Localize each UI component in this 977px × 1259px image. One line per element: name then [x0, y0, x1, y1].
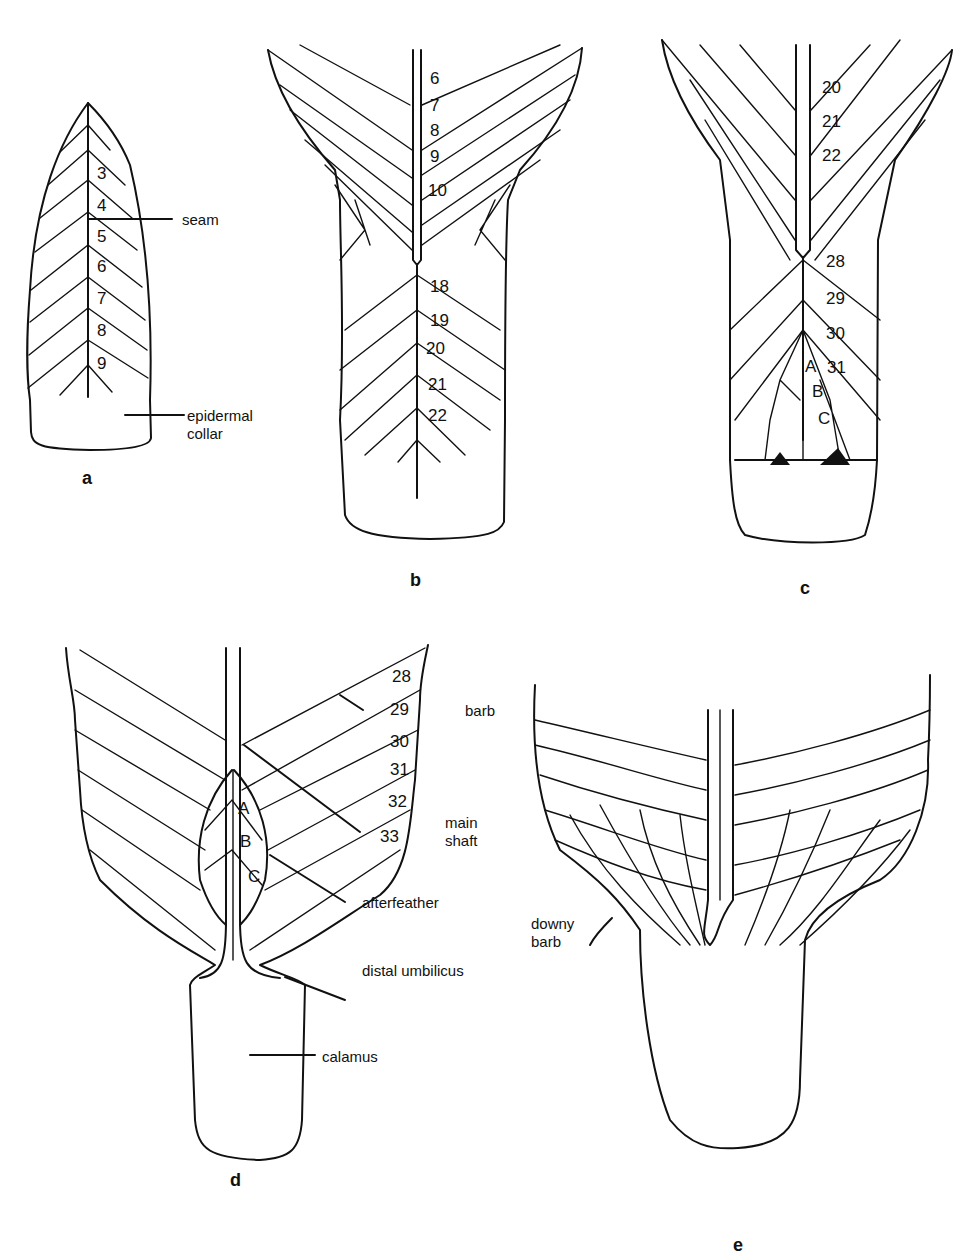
label-main-shaft: shaft: [445, 832, 478, 849]
barb-number: 30: [390, 733, 409, 750]
label-downy-barb: downy: [531, 915, 574, 932]
afterfeather-letter: C: [818, 410, 830, 427]
label-barb: barb: [465, 702, 495, 719]
panel-e-drawing: [534, 675, 930, 1148]
barb-number: 20: [426, 340, 445, 357]
feather-development-drawing: [0, 0, 977, 1259]
barb-number: 5: [97, 228, 106, 245]
label-seam: seam: [182, 211, 219, 228]
label-main-shaft: main: [445, 814, 478, 831]
panel-caption: d: [230, 1170, 241, 1191]
barb-number: 9: [97, 355, 106, 372]
afterfeather-letter: A: [238, 800, 249, 817]
panel-a-drawing: [27, 103, 184, 450]
barb-number: 6: [430, 70, 439, 87]
barb-number: 3: [97, 165, 106, 182]
barb-number: 4: [97, 197, 106, 214]
label-epidermal-collar: epidermal: [187, 407, 253, 424]
barb-number: 31: [390, 761, 409, 778]
label-afterfeather: afterfeather: [362, 894, 439, 911]
barb-number: 7: [430, 97, 439, 114]
barb-number: 9: [430, 148, 439, 165]
panel-caption: c: [800, 578, 810, 599]
barb-number: 7: [97, 290, 106, 307]
label-downy-barb: barb: [531, 933, 561, 950]
barb-number: 29: [826, 290, 845, 307]
barb-number: 8: [97, 322, 106, 339]
afterfeather-letter: B: [812, 383, 823, 400]
barb-number: 21: [428, 376, 447, 393]
barb-number: 19: [430, 312, 449, 329]
barb-number: 18: [430, 278, 449, 295]
label-calamus: calamus: [322, 1048, 378, 1065]
panel-caption: a: [82, 468, 92, 489]
barb-number: 28: [392, 668, 411, 685]
barb-number: 28: [826, 253, 845, 270]
panel-b-drawing: [268, 45, 582, 539]
barb-number: 30: [826, 325, 845, 342]
afterfeather-letter: C: [248, 868, 260, 885]
label-epidermal-collar: collar: [187, 425, 223, 442]
barb-number: 6: [97, 258, 106, 275]
label-distal-umbilicus: distal umbilicus: [362, 962, 464, 979]
barb-number: 8: [430, 122, 439, 139]
barb-number: 22: [822, 147, 841, 164]
panel-c-drawing: [662, 40, 952, 543]
barb-number: 10: [428, 182, 447, 199]
barb-number: 20: [822, 79, 841, 96]
barb-number: 21: [822, 113, 841, 130]
barb-number: 31: [827, 359, 846, 376]
barb-number: 33: [380, 828, 399, 845]
panel-caption: e: [733, 1235, 743, 1256]
afterfeather-letter: B: [240, 833, 251, 850]
panel-caption: b: [410, 570, 421, 591]
barb-number: 22: [428, 407, 447, 424]
barb-number: 29: [390, 701, 409, 718]
barb-number: 32: [388, 793, 407, 810]
afterfeather-letter: A: [805, 358, 816, 375]
